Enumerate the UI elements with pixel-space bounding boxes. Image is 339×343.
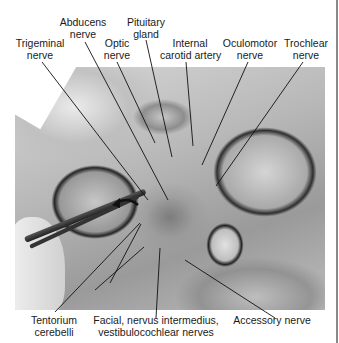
- leader-tentorium-1: [55, 223, 140, 312]
- label-internal-carotid-artery: Internal carotid artery: [160, 37, 220, 61]
- anatomical-figure: Trigeminal nerve Abducens nerve Optic ne…: [0, 0, 339, 343]
- leader-optic: [117, 62, 155, 143]
- leader-internal-carotid: [186, 62, 193, 146]
- leader-accessory: [185, 260, 275, 318]
- leader-trochlear: [216, 62, 303, 186]
- label-facial-vestibulocochlear-nerves: Facial, nervus intermedius, vestibulococ…: [92, 314, 220, 338]
- curved-arrow-icon: [112, 198, 138, 208]
- label-trochlear-nerve: Trochlear nerve: [282, 37, 330, 61]
- label-tentorium-cerebelli: Tentorium cerebelli: [28, 314, 80, 338]
- label-oculomotor-nerve: Oculomotor nerve: [222, 37, 278, 61]
- leader-abducens: [85, 42, 168, 200]
- page-edge-divider: [336, 0, 338, 343]
- label-trigeminal-nerve: Trigeminal nerve: [12, 37, 68, 61]
- label-accessory-nerve: Accessory nerve: [232, 314, 312, 326]
- leader-facial: [156, 248, 160, 318]
- label-optic-nerve: Optic nerve: [100, 37, 134, 61]
- leader-tentorium-2: [95, 247, 144, 290]
